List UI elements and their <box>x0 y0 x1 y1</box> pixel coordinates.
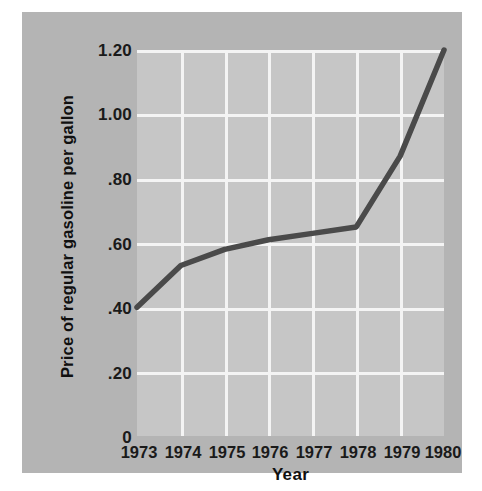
x-tick-label: 1974 <box>165 444 202 461</box>
x-tick-label: 1978 <box>340 444 377 461</box>
y-axis-title: Price of regular gasoline per gallon <box>58 87 77 387</box>
y-axis-ticks: 1.20 1.00 .80 .60 .40 .20 0 <box>82 50 132 436</box>
x-tick-label: 1975 <box>209 444 246 461</box>
y-tick-label: 1.00 <box>98 106 132 123</box>
y-tick-label: .60 <box>108 236 132 253</box>
x-tick-label: 1979 <box>384 444 421 461</box>
y-tick-label: .80 <box>108 171 132 188</box>
chart-figure: 1.20 1.00 .80 .60 .40 .20 0 Price of reg… <box>0 0 482 491</box>
x-tick-label: 1976 <box>252 444 289 461</box>
y-tick-label: .40 <box>108 300 132 317</box>
x-tick-label: 1977 <box>296 444 333 461</box>
y-tick-label: 1.20 <box>98 42 132 59</box>
x-axis-title: Year <box>137 465 444 485</box>
data-line-chart <box>137 50 444 436</box>
chart-panel: 1.20 1.00 .80 .60 .40 .20 0 Price of reg… <box>22 12 462 473</box>
plot-area <box>137 50 444 436</box>
y-tick-label: .20 <box>108 365 132 382</box>
x-tick-label: 1973 <box>121 444 158 461</box>
x-tick-label: 1980 <box>425 444 462 461</box>
price-series-line <box>137 50 444 307</box>
